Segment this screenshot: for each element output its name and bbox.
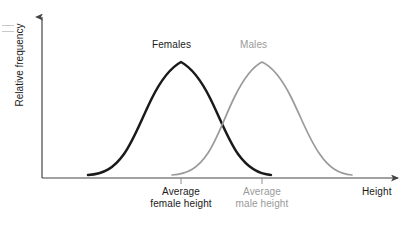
x-axis-label: Height (362, 186, 392, 198)
relative-frequency-height-chart: Relative frequency Females Males Average… (0, 0, 418, 230)
x-tick-label-average-female-height: Average female height (143, 186, 219, 210)
x-tick-label-male-line2: male height (236, 198, 289, 209)
males-curve-label: Males (240, 39, 267, 51)
females-distribution-curve (88, 62, 271, 175)
y-axis-label: Relative frequency (14, 5, 28, 125)
x-tick-label-average-male-height: Average male height (226, 186, 298, 210)
x-tick-label-male-line1: Average (243, 186, 281, 197)
females-curve-label: Females (152, 39, 191, 51)
x-tick-label-female-line1: Average (162, 186, 200, 197)
y-axis-label-text: Relative frequency (14, 5, 25, 125)
x-tick-label-female-line2: female height (150, 198, 211, 209)
